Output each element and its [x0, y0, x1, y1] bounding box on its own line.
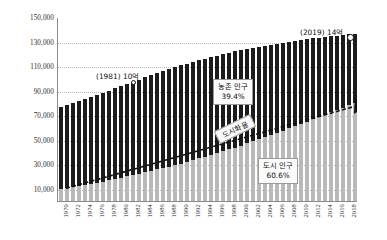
annotation-urban-share: 도시 인구 60.6% [258, 158, 298, 184]
bar-urban-population [305, 122, 308, 201]
bar-total-population [335, 36, 338, 110]
bar-urban-population [245, 143, 248, 201]
x-tick-label: 1986 [158, 204, 165, 218]
bar-column [89, 17, 92, 201]
bar-urban-population [317, 117, 320, 201]
bar-column [119, 17, 122, 201]
bar-column [185, 17, 188, 201]
bar-total-population [179, 65, 182, 163]
bar-total-population [275, 44, 278, 133]
bar-column [353, 17, 356, 201]
bar-urban-population [323, 115, 326, 201]
x-tick-label: 2004 [266, 204, 273, 218]
bar-total-population [197, 60, 200, 158]
bar-total-population [293, 41, 296, 126]
bar-total-population [77, 101, 80, 186]
bar-column [143, 17, 146, 201]
annotation-point-2019-marker [347, 34, 354, 41]
bar-urban-population [311, 119, 314, 201]
bar-series-group [58, 18, 357, 201]
bar-total-population [101, 93, 104, 182]
bar-total-population [317, 38, 320, 117]
bar-urban-population [173, 165, 176, 201]
annotation-urban-share-line1: 도시 인구 [263, 161, 293, 171]
bar-column [341, 17, 344, 201]
bar-column [59, 17, 62, 201]
x-tick-label: 1982 [134, 204, 141, 218]
bar-column [245, 17, 248, 201]
bar-column [71, 17, 74, 201]
bar-urban-population [239, 146, 242, 201]
x-tick-label: 1974 [86, 204, 93, 218]
bar-total-population [119, 86, 122, 178]
bar-column [149, 17, 152, 201]
bar-urban-population [347, 105, 350, 201]
y-tick-label: 130,000 [8, 39, 54, 47]
bar-total-population [161, 71, 164, 168]
bar-column [191, 17, 194, 201]
bar-total-population [209, 57, 212, 155]
bar-column [113, 17, 116, 201]
x-axis: 1970197219741976197819801982198419861988… [57, 203, 357, 237]
bar-column [155, 17, 158, 201]
bar-column [305, 17, 308, 201]
bar-urban-population [161, 168, 164, 201]
x-tick-label: 1980 [122, 204, 129, 218]
y-tick-label: 150,000 [8, 14, 54, 22]
x-tick-label: 1976 [98, 204, 105, 218]
annotation-point-1981-marker [131, 80, 136, 85]
x-tick-label: 1972 [74, 204, 81, 218]
bar-urban-population [215, 153, 218, 201]
bar-total-population [65, 105, 68, 188]
bar-column [323, 17, 326, 201]
bar-urban-population [167, 167, 170, 201]
x-tick-label: 1994 [206, 204, 213, 218]
x-tick-label: 1996 [218, 204, 225, 218]
bar-total-population [281, 43, 284, 131]
bar-total-population [59, 107, 62, 189]
bar-urban-population [113, 179, 116, 201]
bar-total-population [191, 62, 194, 160]
bar-column [329, 17, 332, 201]
bar-column [179, 17, 182, 201]
bar-urban-population [137, 174, 140, 201]
x-tick-label: 2006 [278, 204, 285, 218]
bar-column [125, 17, 128, 201]
bar-total-population [95, 95, 98, 183]
bar-urban-population [95, 183, 98, 201]
bar-total-population [143, 77, 146, 172]
bar-urban-population [329, 112, 332, 201]
x-tick-label: 2014 [326, 204, 333, 218]
bar-total-population [341, 35, 344, 108]
bar-total-population [323, 37, 326, 115]
bar-total-population [113, 88, 116, 179]
bar-column [65, 17, 68, 201]
y-tick-label: 110,000 [8, 63, 54, 71]
bar-urban-population [179, 164, 182, 201]
bar-column [317, 17, 320, 201]
bar-urban-population [89, 184, 92, 201]
x-tick-label: 1992 [194, 204, 201, 218]
bar-total-population [203, 59, 206, 157]
bar-total-population [305, 39, 308, 121]
bar-total-population [89, 97, 92, 184]
bar-total-population [155, 73, 158, 169]
x-tick-label: 1978 [110, 204, 117, 218]
bar-urban-population [341, 108, 344, 201]
bar-total-population [149, 75, 152, 171]
x-tick-label: 2010 [302, 204, 309, 218]
bar-column [215, 17, 218, 201]
bar-total-population [329, 36, 332, 112]
bar-urban-population [221, 151, 224, 201]
bar-urban-population [299, 124, 302, 201]
y-tick-label: 70,000 [8, 112, 54, 120]
bar-urban-population [65, 188, 68, 201]
bar-total-population [71, 103, 74, 187]
bar-urban-population [353, 103, 356, 201]
bar-column [137, 17, 140, 201]
annotation-point-2019-label: (2019) 14억 [300, 26, 343, 37]
bar-column [77, 17, 80, 201]
bar-urban-population [335, 110, 338, 201]
bar-column [173, 17, 176, 201]
bar-urban-population [203, 157, 206, 201]
